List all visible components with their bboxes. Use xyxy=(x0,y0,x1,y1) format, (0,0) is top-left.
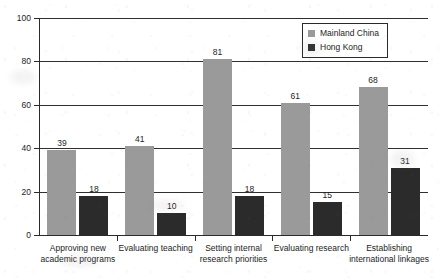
bar-value-mainland-china-2: 81 xyxy=(213,48,222,57)
category-label-line: Evaluating research xyxy=(274,243,349,254)
category-label-line: Setting internal xyxy=(200,243,268,254)
bar-mainland-china-0 xyxy=(47,150,76,235)
bar-hong-kong-2 xyxy=(235,196,264,235)
bar-value-hong-kong-3: 15 xyxy=(323,191,332,200)
bar-value-hong-kong-4: 31 xyxy=(400,157,409,166)
x-tick-3 xyxy=(272,236,273,241)
y-axis-label-20: 20 xyxy=(22,187,31,196)
category-label-3: Evaluating research xyxy=(274,243,349,254)
bar-hong-kong-4 xyxy=(391,168,420,235)
bar-hong-kong-0 xyxy=(79,196,108,235)
category-label-line: academic programs xyxy=(41,254,116,265)
legend-label-mainland-china: Mainland China xyxy=(320,29,379,38)
x-tick-2 xyxy=(195,236,196,241)
y-axis-label-80: 80 xyxy=(22,57,31,66)
chart-legend: Mainland China Hong Kong xyxy=(302,23,388,58)
bar-mainland-china-4 xyxy=(359,87,388,235)
bar-mainland-china-3 xyxy=(281,103,310,235)
category-label-4: Establishinginternational linkages xyxy=(349,243,429,264)
y-axis-label-0: 0 xyxy=(26,231,31,240)
legend-swatch-hong-kong xyxy=(308,44,315,51)
bar-hong-kong-3 xyxy=(313,202,342,235)
bar-mainland-china-2 xyxy=(203,59,232,235)
bar-value-hong-kong-2: 18 xyxy=(245,185,254,194)
category-label-2: Setting internalresearch priorities xyxy=(200,243,268,264)
legend-item-mainland-china: Mainland China xyxy=(308,28,379,39)
bar-hong-kong-1 xyxy=(157,213,186,235)
grouped-bar-chart: 020406080100 39184110811861156831 Approv… xyxy=(0,0,443,280)
legend-item-hong-kong: Hong Kong xyxy=(308,42,379,53)
legend-label-hong-kong: Hong Kong xyxy=(320,43,363,52)
bar-value-mainland-china-0: 39 xyxy=(57,139,66,148)
category-label-1: Evaluating teaching xyxy=(119,243,193,254)
category-label-line: research priorities xyxy=(200,254,268,265)
legend-swatch-mainland-china xyxy=(308,30,315,37)
category-label-0: Approving newacademic programs xyxy=(41,243,116,264)
bar-value-mainland-china-3: 61 xyxy=(291,92,300,101)
bar-value-hong-kong-0: 18 xyxy=(89,185,98,194)
category-label-line: international linkages xyxy=(349,254,429,265)
x-tick-4 xyxy=(350,236,351,241)
bar-value-mainland-china-4: 68 xyxy=(368,76,377,85)
y-axis-label-100: 100 xyxy=(17,14,31,23)
bar-mainland-china-1 xyxy=(125,146,154,235)
category-label-line: Approving new xyxy=(41,243,116,254)
y-axis-label-60: 60 xyxy=(22,101,31,110)
category-label-line: Evaluating teaching xyxy=(119,243,193,254)
bar-value-mainland-china-1: 41 xyxy=(135,135,144,144)
x-tick-1 xyxy=(117,236,118,241)
y-axis-label-40: 40 xyxy=(22,144,31,153)
bar-value-hong-kong-1: 10 xyxy=(167,202,176,211)
category-label-line: Establishing xyxy=(349,243,429,254)
